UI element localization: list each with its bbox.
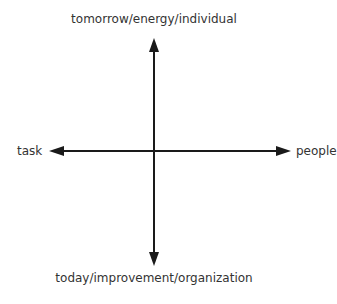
arrow-left-icon	[49, 146, 64, 156]
top-axis-label: tomorrow/energy/individual	[0, 12, 308, 26]
arrow-down-icon	[149, 252, 159, 266]
left-axis-label: task	[17, 144, 42, 158]
bottom-axis-label: today/improvement/organization	[0, 271, 308, 285]
right-axis-label: people	[296, 144, 337, 158]
horizontal-axis	[49, 146, 291, 156]
arrow-up-icon	[149, 38, 159, 52]
arrow-right-icon	[276, 146, 291, 156]
